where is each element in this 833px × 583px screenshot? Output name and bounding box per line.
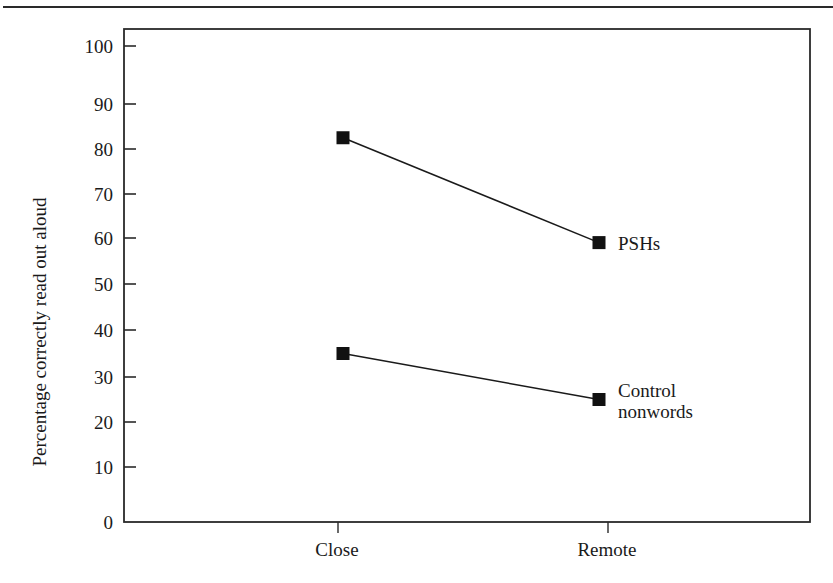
y-tick-label: 100 (85, 36, 114, 57)
x-tick-label-remote: Remote (577, 539, 636, 560)
y-axis-title: Percentage correctly read out aloud (29, 197, 50, 467)
y-axis: 0102030405060708090100 (85, 36, 137, 533)
y-tick-label: 30 (94, 367, 113, 388)
line-chart: 0102030405060708090100 CloseRemote PSHsC… (0, 0, 833, 583)
y-tick-label: 90 (94, 94, 113, 115)
series-label: Control (618, 380, 676, 401)
y-tick-label: 80 (94, 139, 113, 160)
plot-border (124, 29, 810, 522)
square-marker (593, 236, 606, 249)
y-tick-label: 50 (94, 274, 113, 295)
series-line (343, 354, 599, 400)
series-label: nonwords (618, 401, 693, 422)
y-tick-label: 60 (94, 228, 113, 249)
y-tick-label: 0 (104, 512, 114, 533)
series-pshs: PSHs (337, 131, 661, 253)
y-tick-label: 10 (94, 457, 113, 478)
x-axis: CloseRemote (315, 522, 636, 560)
square-marker (593, 393, 606, 406)
plot-frame (124, 29, 810, 522)
y-tick-label: 40 (94, 320, 113, 341)
y-tick-label: 20 (94, 412, 113, 433)
series-group: PSHsControlnonwords (337, 131, 693, 421)
series-line (343, 138, 599, 243)
x-tick-label-close: Close (315, 539, 358, 560)
square-marker (337, 131, 350, 144)
series-label: PSHs (618, 233, 660, 254)
y-tick-label: 70 (94, 184, 113, 205)
series-control-nonwords: Controlnonwords (337, 347, 693, 422)
square-marker (337, 347, 350, 360)
